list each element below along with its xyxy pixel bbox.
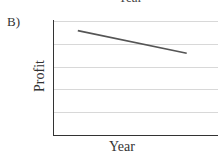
x-axis-label: Year (109, 140, 135, 154)
gridlines (53, 22, 218, 113)
profit-trend-line (78, 31, 187, 54)
y-axis-label: Profit (33, 60, 47, 92)
